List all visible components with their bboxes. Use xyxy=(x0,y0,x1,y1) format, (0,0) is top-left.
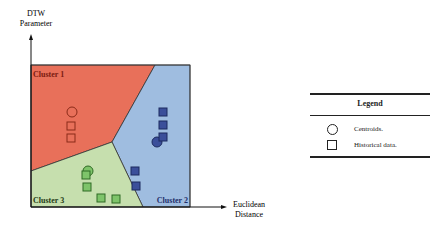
historical-data-marker xyxy=(67,122,75,130)
legend-item-centroids: Centroids. xyxy=(310,121,430,137)
y-axis-label-line1: DTW xyxy=(27,9,46,18)
square-icon xyxy=(327,140,337,150)
y-axis-label-line2: Parameter xyxy=(20,19,53,28)
historical-data-marker xyxy=(83,183,91,191)
historical-data-marker xyxy=(132,182,140,190)
cluster-3-label: Cluster 3 xyxy=(33,196,64,205)
historical-data-marker xyxy=(159,108,167,116)
historical-data-marker xyxy=(67,134,75,142)
legend: Legend Centroids. Historical data. xyxy=(310,93,430,158)
cluster-diagram: DTW Parameter Euclidean Distance Cluster… xyxy=(0,0,447,227)
y-axis-arrow-icon xyxy=(29,34,33,40)
x-axis-label-line2: Distance xyxy=(235,210,263,219)
cluster-2-label: Cluster 2 xyxy=(157,196,188,205)
historical-data-marker xyxy=(82,171,90,179)
legend-item-label: Historical data. xyxy=(354,141,397,149)
cluster-1-label: Cluster 1 xyxy=(33,70,64,79)
historical-data-marker xyxy=(97,194,105,202)
centroid-marker xyxy=(67,107,77,117)
circle-icon xyxy=(327,124,338,135)
x-axis-arrow-icon xyxy=(221,205,227,209)
historical-data-marker xyxy=(112,195,120,203)
legend-title: Legend xyxy=(310,95,430,115)
x-axis-label-line1: Euclidean xyxy=(233,200,265,209)
historical-data-marker xyxy=(159,121,167,129)
historical-data-marker xyxy=(131,167,139,175)
historical-data-marker xyxy=(159,133,167,141)
legend-bottom-rule xyxy=(310,156,430,158)
legend-item-label: Centroids. xyxy=(354,125,383,133)
legend-item-historical: Historical data. xyxy=(310,137,430,153)
